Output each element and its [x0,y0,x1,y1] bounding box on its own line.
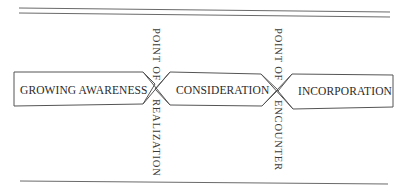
top-double-rule [19,8,390,17]
stage-label-consideration: CONSIDERATION [176,84,269,96]
transition-label-realization-bottom: REALIZATION [151,99,162,177]
stage-label-incorporation: INCORPORATION [298,85,392,97]
stage-label-growing-awareness: GROWING AWARENESS [20,84,148,96]
bottom-rule [20,181,388,184]
process-diagram: GROWING AWARENESS CONSIDERATION INCORPOR… [0,0,408,193]
transition-label-realization-top: POINT OF [151,28,162,81]
transition-label-encounter-top: POINT OF [273,28,284,81]
transition-label-encounter-bottom: ENCOUNTER [273,100,284,171]
